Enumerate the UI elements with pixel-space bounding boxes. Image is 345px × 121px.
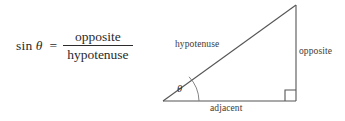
- angle-arc: [189, 77, 199, 101]
- theta-symbol: θ: [36, 39, 43, 53]
- adjacent-label: adjacent: [210, 103, 242, 113]
- theta-angle-label: θ: [177, 83, 182, 94]
- hypotenuse-side-line: [163, 5, 296, 101]
- triangle-svg: [150, 0, 345, 121]
- sine-formula: sin θ = opposite hypotenuse: [16, 30, 133, 61]
- hypotenuse-label: hypotenuse: [175, 39, 219, 49]
- equals-sign: =: [50, 39, 58, 53]
- trigonometry-figure: sin θ = opposite hypotenuse θ hypotenuse…: [0, 0, 345, 121]
- right-triangle-diagram: θ hypotenuse opposite adjacent: [150, 0, 345, 121]
- opposite-label: opposite: [299, 46, 332, 56]
- sine-function-label: sin: [16, 39, 32, 53]
- fraction-numerator: opposite: [71, 30, 125, 45]
- right-angle-marker: [285, 90, 296, 101]
- ratio-fraction: opposite hypotenuse: [63, 30, 133, 61]
- fraction-denominator: hypotenuse: [63, 46, 133, 61]
